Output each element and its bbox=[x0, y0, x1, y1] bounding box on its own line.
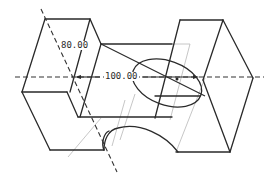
dimension-lines bbox=[75, 44, 205, 96]
diagonal-centerline bbox=[41, 9, 117, 172]
hidden-edges bbox=[68, 44, 205, 157]
ellipse-hole bbox=[126, 50, 209, 116]
dimension-label-100[interactable]: 100.00 bbox=[104, 72, 139, 81]
dimension-label-80[interactable]: 80.00 bbox=[60, 41, 89, 50]
bottom-arc-cutout bbox=[103, 127, 230, 152]
drawing-canvas[interactable]: 80.00 100.00 bbox=[0, 0, 274, 177]
right-block bbox=[155, 20, 253, 152]
